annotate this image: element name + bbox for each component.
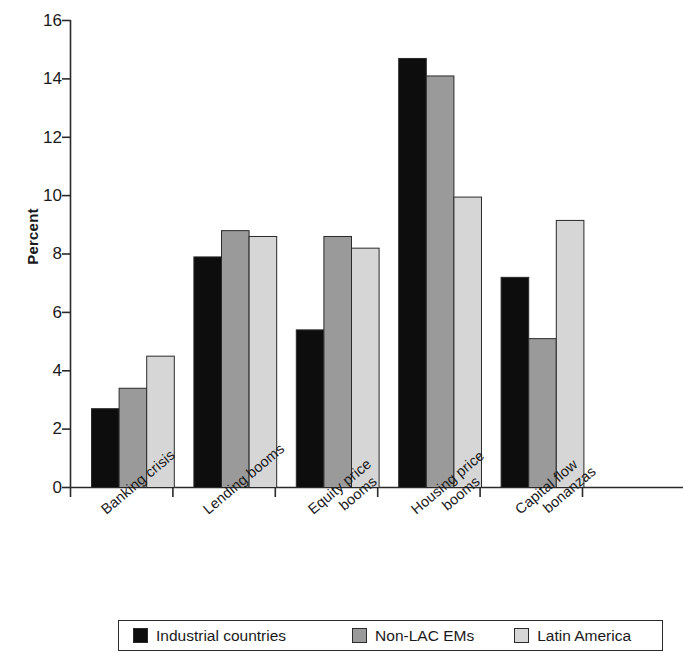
legend-item-industrial-countries: Industrial countries	[133, 628, 286, 644]
legend-label-non-lac-ems: Non-LAC EMs	[375, 628, 474, 644]
bar	[501, 277, 529, 487]
legend-item-non-lac-ems: Non-LAC EMs	[352, 628, 474, 644]
bar	[426, 76, 454, 488]
legend-item-latin-america: Latin America	[514, 628, 631, 644]
legend-swatch-non-lac-ems	[352, 628, 367, 643]
legend-swatch-industrial-countries	[133, 628, 148, 643]
bar	[222, 231, 250, 488]
bar-chart: Percent 16 14 12 10 8 6 4 2 0	[0, 0, 685, 653]
bar	[399, 58, 427, 487]
bar	[529, 339, 557, 488]
bar	[194, 257, 222, 488]
y-axis-ticks	[62, 21, 71, 488]
bar	[324, 236, 352, 487]
legend-swatch-latin-america	[514, 628, 529, 643]
legend-label-latin-america: Latin America	[537, 628, 631, 644]
legend-label-industrial-countries: Industrial countries	[156, 628, 286, 644]
bar	[352, 248, 380, 487]
bar	[296, 330, 324, 488]
plot-area	[0, 0, 685, 500]
bar-series-group	[92, 58, 584, 487]
bar	[556, 220, 584, 487]
legend: Industrial countries Non-LAC EMs Latin A…	[118, 620, 663, 651]
bar	[454, 197, 482, 487]
bar	[92, 409, 120, 488]
